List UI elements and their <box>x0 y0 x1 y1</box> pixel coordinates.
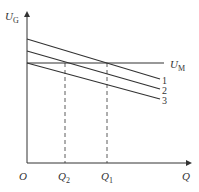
y-axis-label: UG <box>5 10 19 25</box>
line-2 <box>27 51 160 89</box>
um-label: UM <box>170 58 185 73</box>
line-3-label: 3 <box>162 95 167 106</box>
diagram-canvas: UG Q O UM 1 2 3 Q2 Q1 <box>0 0 199 192</box>
x-axis-label: Q <box>182 170 190 182</box>
line-1 <box>27 39 160 79</box>
q2-label: Q2 <box>58 170 70 185</box>
origin-label: O <box>19 170 27 182</box>
q1-label: Q1 <box>101 170 113 185</box>
line-3 <box>27 63 160 99</box>
